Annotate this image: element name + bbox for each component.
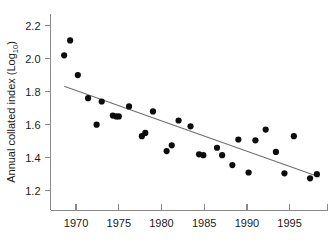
x-tick-label: 1970 [64,217,88,229]
scatter-plot: 1.21.41.61.82.02.2 197019751980198519901… [0,0,331,250]
data-point [214,145,220,151]
x-tick-label: 1980 [149,217,173,229]
y-tick-label: 2.2 [25,20,40,32]
data-point [142,130,148,136]
data-point [229,162,235,168]
data-point [116,113,122,119]
data-point [126,103,132,109]
x-tick-label: 1995 [277,217,301,229]
data-point [99,98,105,104]
data-point [85,95,91,101]
data-point [263,126,269,132]
data-point [291,133,297,139]
x-tick-label: 1975 [107,217,131,229]
data-point [273,149,279,155]
y-tick-label: 1.4 [25,152,40,164]
data-point [67,37,73,43]
data-point [281,170,287,176]
data-point [245,169,251,175]
data-point [75,72,81,78]
data-point [200,152,206,158]
y-tick-label: 1.8 [25,86,40,98]
data-point [61,52,67,58]
y-tick-label: 1.6 [25,119,40,131]
data-point [164,148,170,154]
data-point [169,142,175,148]
x-tick-label: 1985 [192,217,216,229]
data-point [314,171,320,177]
data-point [150,108,156,114]
data-point [175,117,181,123]
data-point [252,137,258,143]
chart-figure: 1.21.41.61.82.02.2 197019751980198519901… [0,0,331,250]
y-tick-label: 1.2 [25,185,40,197]
data-point [187,123,193,129]
y-tick-label: 2.0 [25,53,40,65]
data-point [235,136,241,142]
data-point [219,152,225,158]
x-tick-label: 1990 [235,217,259,229]
data-point [307,175,313,181]
data-point [94,122,100,128]
